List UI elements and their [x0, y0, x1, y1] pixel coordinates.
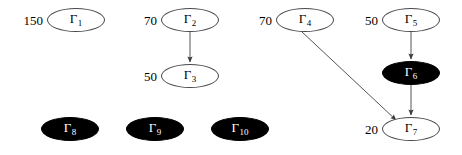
weight-label-gamma-7: 20 — [348, 123, 378, 136]
node-label-gamma-10: Γ10 — [231, 121, 248, 138]
node-index: 2 — [191, 18, 196, 28]
node-gamma-1[interactable]: Γ1 — [47, 8, 105, 32]
weight-label-gamma-5: 50 — [348, 14, 378, 27]
node-index: 10 — [239, 127, 249, 137]
node-index: 8 — [71, 127, 76, 137]
weight-label-gamma-1: 150 — [13, 14, 43, 27]
weight-label-gamma-3: 50 — [127, 70, 157, 83]
node-index: 4 — [306, 18, 311, 28]
node-gamma-10[interactable]: Γ10 — [211, 117, 269, 141]
node-index: 5 — [412, 18, 417, 28]
node-label-gamma-2: Γ2 — [184, 12, 197, 29]
node-gamma-7[interactable]: Γ7 — [382, 117, 440, 141]
node-gamma-8[interactable]: Γ8 — [41, 117, 99, 141]
node-gamma-2[interactable]: Γ2 — [161, 8, 219, 32]
node-index: 1 — [77, 18, 82, 28]
node-index: 9 — [156, 127, 161, 137]
node-label-gamma-6: Γ6 — [405, 65, 418, 82]
node-label-gamma-9: Γ9 — [149, 121, 162, 138]
node-symbol: Γ — [231, 120, 239, 135]
node-index: 6 — [412, 71, 417, 81]
node-label-gamma-8: Γ8 — [64, 121, 77, 138]
node-label-gamma-3: Γ3 — [184, 68, 197, 85]
edges-group — [190, 31, 411, 120]
node-label-gamma-5: Γ5 — [405, 12, 418, 29]
diagram-canvas: Γ1150Γ270Γ350Γ470Γ550Γ6Γ720Γ8Γ9Γ10 — [0, 0, 462, 155]
node-label-gamma-7: Γ7 — [405, 121, 418, 138]
node-label-gamma-1: Γ1 — [70, 12, 83, 29]
node-gamma-4[interactable]: Γ4 — [276, 8, 334, 32]
node-gamma-3[interactable]: Γ3 — [161, 64, 219, 88]
node-index: 7 — [412, 127, 417, 137]
node-gamma-9[interactable]: Γ9 — [126, 117, 184, 141]
node-index: 3 — [191, 74, 196, 84]
weight-label-gamma-2: 70 — [127, 14, 157, 27]
node-gamma-6[interactable]: Γ6 — [382, 61, 440, 85]
node-label-gamma-4: Γ4 — [299, 12, 312, 29]
weight-label-gamma-4: 70 — [242, 14, 272, 27]
node-gamma-5[interactable]: Γ5 — [382, 8, 440, 32]
